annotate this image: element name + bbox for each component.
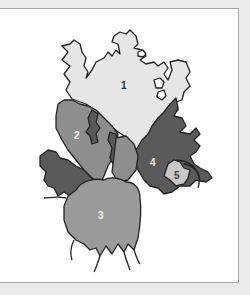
label-4: 4 [150, 157, 156, 168]
label-1: 1 [121, 80, 127, 91]
label-2: 2 [74, 130, 80, 141]
label-3: 3 [98, 210, 104, 221]
plant-diagram: 1 2 3 4 5 [0, 0, 250, 295]
label-5: 5 [174, 170, 180, 181]
